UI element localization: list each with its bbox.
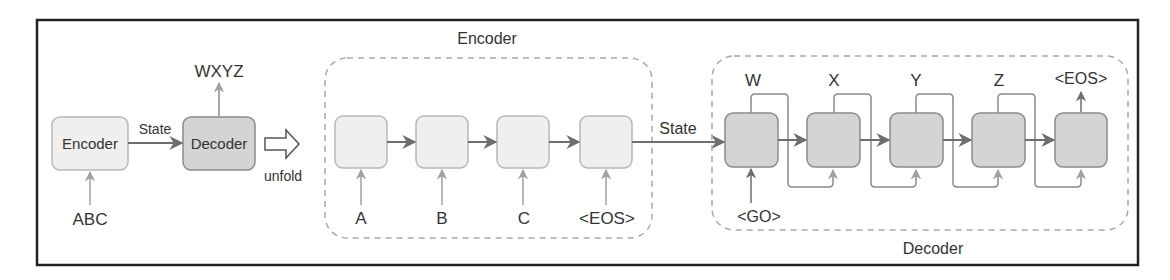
encoder-cell-2 bbox=[416, 116, 468, 168]
encoder-cell-3 bbox=[497, 116, 549, 168]
state-transfer-label: State bbox=[659, 120, 696, 137]
encoder-input-label: C bbox=[518, 209, 530, 228]
decoder-group-title: Decoder bbox=[903, 240, 964, 257]
decoder-output-label: Y bbox=[910, 71, 921, 90]
encoder-cell-1 bbox=[335, 116, 387, 168]
decoder-output-label: Z bbox=[994, 71, 1004, 90]
encoder-input-label: A bbox=[355, 209, 367, 228]
decoder-cell-1 bbox=[725, 113, 778, 167]
decoder-box-label: Decoder bbox=[191, 135, 248, 152]
state-label: State bbox=[139, 121, 172, 137]
encoder-input-label: <EOS> bbox=[579, 209, 635, 228]
decoder-cell-5 bbox=[1055, 113, 1107, 167]
output-label: WXYZ bbox=[194, 62, 243, 81]
encoder-cell-4 bbox=[580, 116, 632, 168]
decoder-cell-3 bbox=[890, 113, 943, 167]
encoder-group-title: Encoder bbox=[457, 30, 517, 47]
go-label: <GO> bbox=[737, 208, 781, 225]
encoder-input-label: B bbox=[436, 209, 447, 228]
decoder-output-label: W bbox=[745, 71, 761, 90]
decoder-output-label: <EOS> bbox=[1055, 70, 1107, 87]
unfold-label: unfold bbox=[264, 168, 302, 184]
decoder-output-label: X bbox=[828, 71, 839, 90]
input-label: ABC bbox=[73, 210, 108, 229]
decoder-cell-4 bbox=[972, 113, 1025, 167]
decoder-cell-2 bbox=[807, 113, 860, 167]
encoder-box-label: Encoder bbox=[62, 135, 118, 152]
seq2seq-diagram: Encoder Decoder State ABC WXYZ unfold En… bbox=[0, 0, 1170, 280]
